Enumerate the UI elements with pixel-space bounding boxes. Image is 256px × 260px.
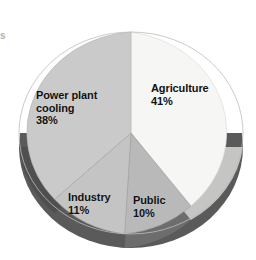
slice-label-public-value: 10% [133,207,165,220]
pie-chart-area: Agriculture 41% Power plant cooling 38% … [0,0,256,260]
slice-label-power-plant-cooling-line1: Power plant [36,89,97,102]
slice-label-agriculture-value: 41% [151,95,209,108]
slice-label-agriculture: Agriculture 41% [151,82,209,107]
slice-label-public-name: Public [133,194,165,207]
slice-label-power-plant-cooling-value: 38% [36,114,97,127]
pie-chart-figure: s [0,0,256,260]
slice-label-power-plant-cooling-line2: cooling [36,102,97,115]
slice-label-public: Public 10% [133,194,165,219]
pie-chart-svg [0,0,256,260]
slice-label-industry-value: 11% [68,204,111,217]
slice-label-power-plant-cooling: Power plant cooling 38% [36,89,97,127]
slice-label-industry: Industry 11% [68,191,111,216]
slice-label-agriculture-name: Agriculture [151,82,209,95]
slice-label-industry-name: Industry [68,191,111,204]
